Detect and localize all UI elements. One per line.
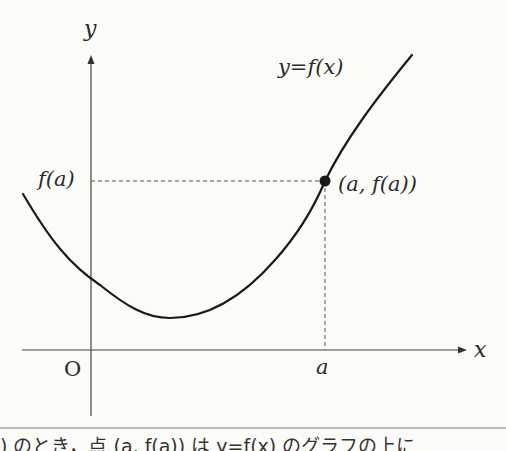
curve-label: y=f(x): [278, 55, 343, 79]
x-axis-arrow-icon: [458, 347, 467, 354]
x-axis-label: x: [474, 337, 486, 362]
caption-text: ) のとき，点 (a, f(a)) は y=f(x) のグラフの上に: [0, 431, 506, 451]
origin-label: O: [64, 357, 81, 381]
point-label: (a, f(a)): [338, 172, 417, 196]
y-axis-label: y: [84, 16, 96, 41]
y-axis-arrow-icon: [88, 55, 95, 64]
y-tick-label-fa: f(a): [38, 167, 75, 191]
x-tick-label-a: a: [316, 355, 329, 379]
point-a-fa-marker: [320, 176, 331, 187]
